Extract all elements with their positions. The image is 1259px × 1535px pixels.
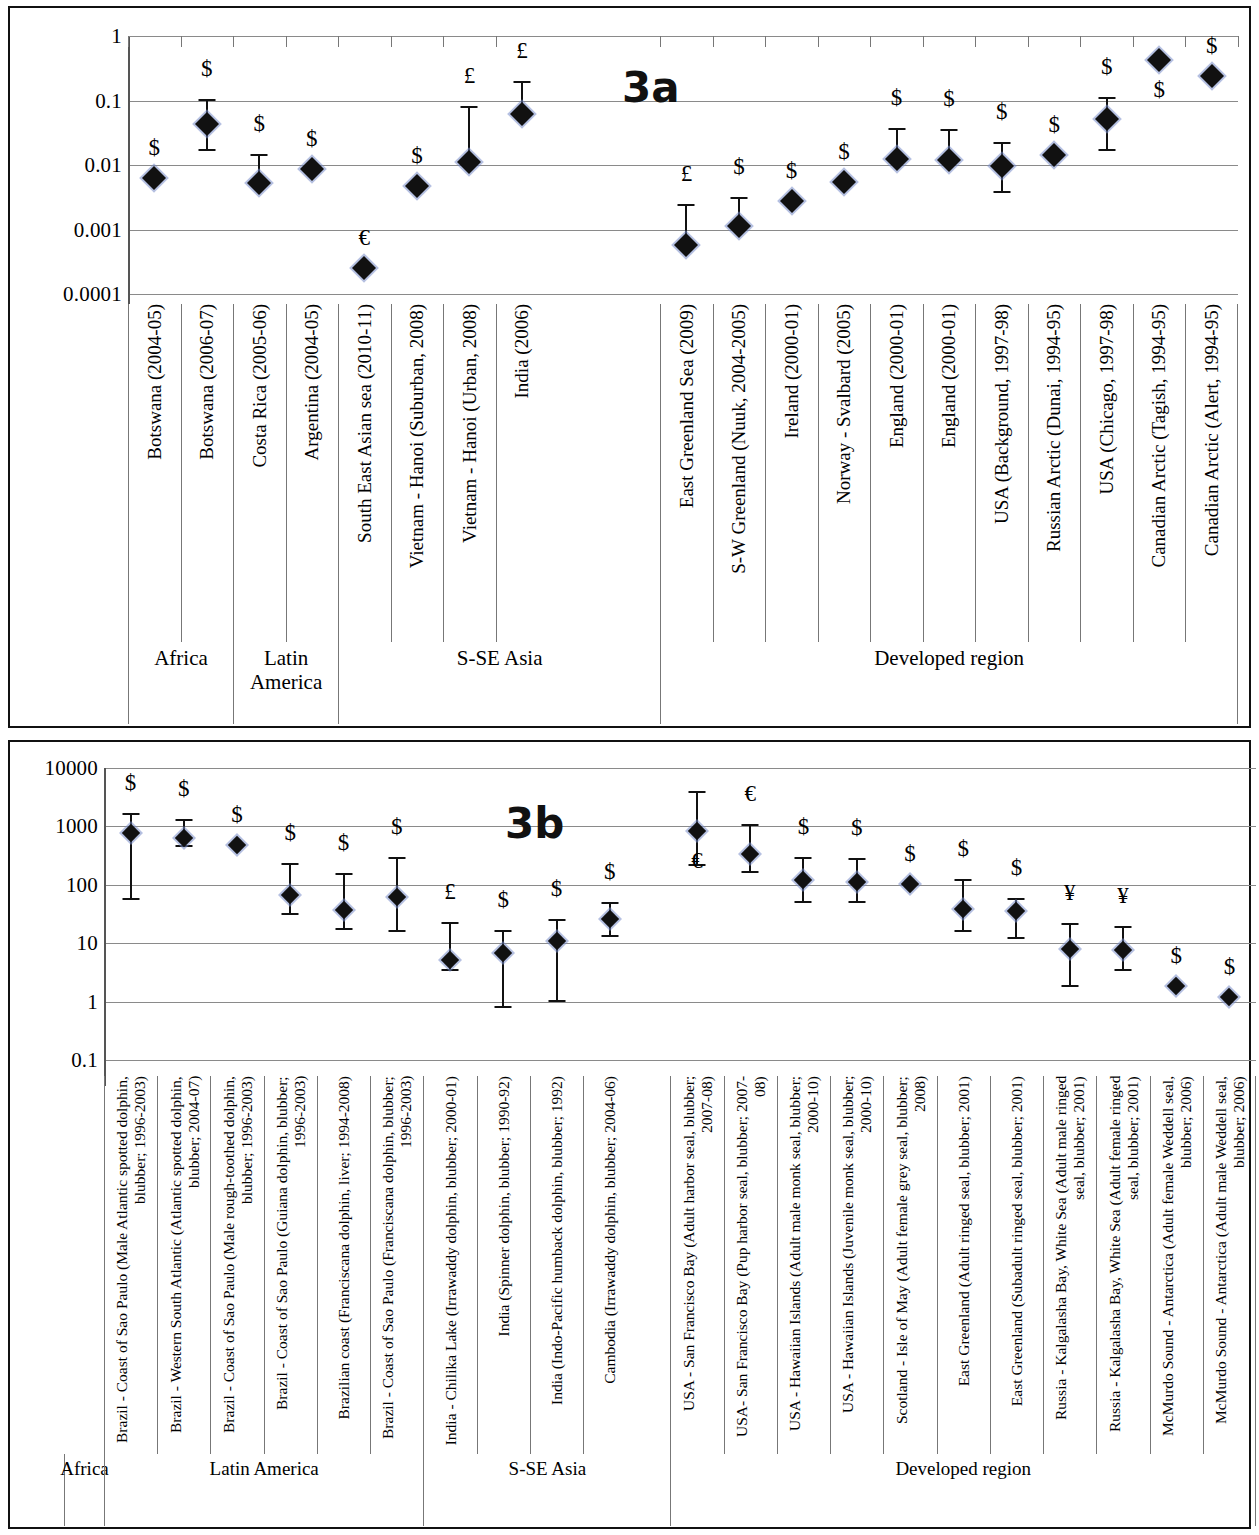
- error-bar-cap: [388, 857, 405, 859]
- data-point-marker: [1220, 988, 1238, 1006]
- category-label-cell: Botswana (2006-07): [181, 304, 234, 642]
- currency-annotation: $: [306, 126, 318, 152]
- currency-annotation: $: [996, 99, 1008, 125]
- y-axis-labels-3a: 10.10.010.0010.0001: [10, 8, 128, 334]
- region-group-label: Africa: [60, 1454, 109, 1480]
- category-label-text: USA - Hawaiian Islands (Juvenile monk se…: [839, 1076, 875, 1454]
- currency-annotation: $: [798, 814, 810, 840]
- error-bar: [502, 930, 504, 1006]
- y-axis-line: [128, 36, 130, 304]
- gridline: [104, 885, 1256, 886]
- gridline: [104, 943, 1256, 944]
- category-label-text: India (Indo-Pacific humback dolphin, blu…: [548, 1076, 566, 1411]
- category-label-text: Brazil - Western South Atlantic (Atlanti…: [167, 1076, 203, 1454]
- category-label-cell: India (Spinner dolphin, blubber; 1990-92…: [477, 1076, 530, 1454]
- category-label-text: East Greenland Sea (2009): [676, 304, 698, 514]
- x-axis-tick: [181, 36, 182, 47]
- category-label-text: India (Spinner dolphin, blubber; 1990-92…: [495, 1076, 513, 1342]
- category-label-text: S-W Greenland (Nuuk, 2004-2005): [728, 304, 750, 580]
- region-group-cell: Developed region: [670, 1454, 1256, 1526]
- category-label-cell: East Greenland Sea (2009): [660, 304, 713, 642]
- currency-annotation: $: [125, 770, 137, 796]
- error-bar-cap: [198, 149, 215, 151]
- x-axis-tick: [338, 36, 339, 47]
- data-point-marker: [990, 154, 1014, 178]
- error-bar-cap: [175, 819, 192, 821]
- region-group-cell: S-SE Asia: [423, 1454, 670, 1526]
- category-label-cell: USA- San Francisco Bay (Pup harbor seal,…: [724, 1076, 777, 1454]
- currency-annotation: $: [1153, 77, 1165, 103]
- category-label-text: McMurdo Sound - Antarctica (Adult female…: [1159, 1076, 1195, 1454]
- x-axis-tick: [1185, 36, 1186, 47]
- category-label-cell: Russia - Kalgalasha Bay, White Sea (Adul…: [1096, 1076, 1149, 1454]
- error-bar-cap: [941, 129, 958, 131]
- y-tick-label: 1: [111, 24, 122, 49]
- category-label-cell: India (2006): [496, 304, 549, 642]
- data-point-marker: [901, 874, 919, 892]
- x-axis-tick: [713, 36, 714, 47]
- category-label-cell: Russian Arctic (Dunai, 1994-95): [1028, 304, 1081, 642]
- data-point-marker: [1147, 48, 1171, 72]
- error-bar-cap: [513, 81, 530, 83]
- error-bar-cap: [689, 791, 706, 793]
- data-point-marker: [1200, 64, 1224, 88]
- y-tick-label: 10000: [45, 756, 99, 781]
- currency-annotation: $: [1206, 33, 1218, 59]
- category-label-text: Brazil - Coast of Sao Paulo (Male rough-…: [220, 1076, 256, 1454]
- category-label-cell: East Greenland (Adult ringed seal, blubb…: [937, 1076, 990, 1454]
- category-label-text: Russia - Kalgalasha Bay, White Sea (Adul…: [1052, 1076, 1088, 1454]
- currency-annotation: $: [904, 841, 916, 867]
- data-point-marker: [601, 910, 619, 928]
- category-label-cell: England (2000-01): [870, 304, 923, 642]
- currency-annotation: $: [957, 836, 969, 862]
- currency-annotation: $: [551, 876, 563, 902]
- data-point-marker: [794, 871, 812, 889]
- error-bar-cap: [678, 204, 695, 206]
- y-tick-label: 0.1: [71, 1048, 98, 1073]
- y-tick-label: 1000: [55, 814, 98, 839]
- panel-label-3a: 3a: [622, 63, 680, 112]
- data-point-marker: [1007, 902, 1025, 920]
- data-point-marker: [405, 174, 429, 198]
- currency-annotation: $: [285, 820, 297, 846]
- error-bar-cap: [122, 898, 139, 900]
- x-axis-tick: [1028, 36, 1029, 47]
- data-point-marker: [885, 147, 909, 171]
- category-label-text: Argentina (2004-05): [301, 304, 323, 466]
- x-axis-tick: [1238, 36, 1239, 47]
- category-label-text: England (2000-01): [886, 304, 908, 454]
- x-axis-tick: [233, 36, 234, 47]
- currency-annotation: $: [851, 815, 863, 841]
- category-label-cell: Brazilian coast (Franciscana dolphin, li…: [317, 1076, 370, 1454]
- x-axis-tick: [660, 36, 661, 47]
- category-label-text: Brazil - Coast of Sao Paulo (Male Atlant…: [113, 1076, 149, 1454]
- category-label-text: Ireland (2000-01): [781, 304, 803, 445]
- data-point-marker: [741, 845, 759, 863]
- error-bar-cap: [388, 930, 405, 932]
- error-bar-cap: [335, 873, 352, 875]
- category-label-cell: Brazil - Coast of Sao Paulo (Male Atlant…: [104, 1076, 157, 1454]
- figure-page: 10.10.010.0010.0001 $$$$€$£££$$$$$$$$$$ …: [0, 0, 1259, 1535]
- category-label-cell: McMurdo Sound - Antarctica (Adult female…: [1150, 1076, 1203, 1454]
- category-label-cell: Norway - Svalbard (2005): [818, 304, 871, 642]
- gridline: [104, 768, 1256, 769]
- category-label-cell: India (Indo-Pacific humback dolphin, blu…: [530, 1076, 583, 1454]
- error-bar-cap: [848, 858, 865, 860]
- error-bar-cap: [1114, 969, 1131, 971]
- error-bar-cap: [955, 930, 972, 932]
- data-point-marker: [457, 150, 481, 174]
- currency-annotation: $: [411, 143, 423, 169]
- y-tick-label: 0.01: [84, 153, 122, 178]
- data-point-marker: [142, 166, 166, 190]
- category-label-text: Vietnam - Hanoi (Urban, 2008): [459, 304, 481, 549]
- category-label-cell: East Greenland (Subadult ringed seal, bl…: [990, 1076, 1043, 1454]
- data-point-marker: [281, 885, 299, 903]
- error-bar-cap: [601, 935, 618, 937]
- y-axis-line: [104, 768, 106, 1086]
- category-label-cell: Argentina (2004-05): [286, 304, 339, 642]
- region-group-label: Developed region: [895, 1454, 1031, 1480]
- category-label-cell: USA - Hawaiian Islands (Adult male monk …: [777, 1076, 830, 1454]
- currency-annotation: $: [178, 776, 190, 802]
- error-bar-cap: [548, 1000, 565, 1002]
- error-bar-cap: [888, 128, 905, 130]
